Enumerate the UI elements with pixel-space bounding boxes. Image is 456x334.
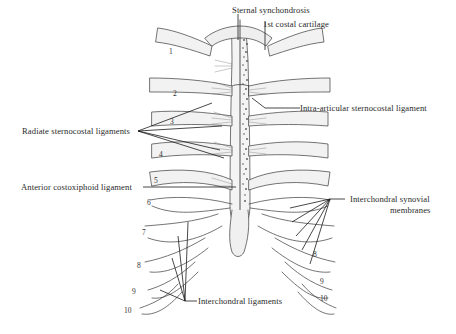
rib-number-right-10: 10 [320,295,328,303]
rib-number-1: 1 [169,48,173,56]
label-anterior-costoxiphoid-ligament: Anterior costoxiphoid ligament [21,183,132,192]
label-intra-articular-ligament: Intra-articular sternocostal ligament [300,104,427,113]
rib-number-2: 2 [173,90,177,98]
label-sternal-synchondrosis: Sternal synchondrosis [232,6,310,15]
label-first-costal-cartilage: 1st costal cartilage [263,20,329,29]
thorax-illustration [0,0,456,334]
rib-number-7: 7 [142,229,146,237]
rib-number-right-9: 9 [320,278,324,286]
rib-number-6: 6 [147,199,151,207]
label-membranes: membranes [390,206,431,215]
rib-number-8: 8 [137,262,141,270]
label-interchondral-synovial: Interchondral synovial [350,195,430,204]
label-radiate-sternocostal-ligaments: Radiate sternocostal ligaments [22,127,130,136]
rib-number-9: 9 [132,288,136,296]
rib-number-4: 4 [159,151,163,159]
rib-number-10: 10 [124,307,132,315]
xiphoid-process [230,210,249,257]
rib-number-right-8: 8 [313,251,317,259]
right-ribs [249,28,336,314]
label-interchondral-ligaments: Interchondral ligaments [198,297,282,306]
rib-number-5: 5 [154,177,158,185]
rib-number-3: 3 [170,118,174,126]
